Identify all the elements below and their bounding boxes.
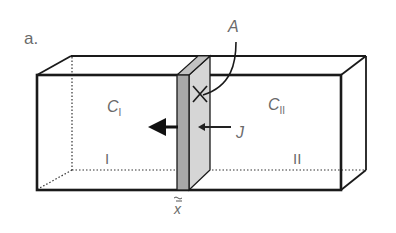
flux-label: J — [235, 124, 245, 141]
conc-right-label: CII — [268, 96, 285, 116]
diffusion-box-diagram: a. A J CI — [0, 0, 396, 233]
conc-left-label: CI — [107, 98, 121, 118]
position-label: x — [173, 201, 182, 217]
region-right-label: II — [293, 150, 301, 167]
area-label: A — [227, 18, 239, 35]
flux-arrow-inner — [198, 123, 231, 131]
region-left-label: I — [105, 150, 109, 167]
flux-arrow-left — [148, 118, 178, 136]
membrane — [177, 56, 210, 190]
panel-label: a. — [24, 29, 38, 48]
